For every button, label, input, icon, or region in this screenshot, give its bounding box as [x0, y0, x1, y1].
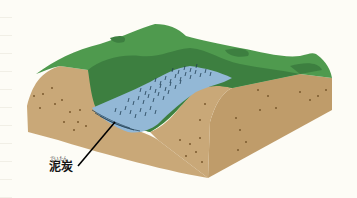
peat-label: でいたん 泥炭 — [49, 156, 73, 174]
peat-label-text: 泥炭 — [49, 161, 73, 174]
